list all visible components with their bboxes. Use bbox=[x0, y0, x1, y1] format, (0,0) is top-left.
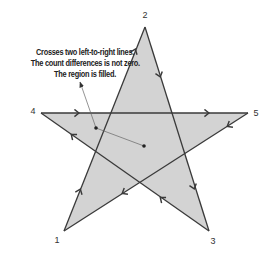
vertex-label-5: 5 bbox=[253, 108, 258, 118]
annotation-text: Crosses two left-to-right lines. The cou… bbox=[31, 47, 139, 80]
test-point-dot bbox=[94, 126, 98, 130]
vertex-label-2: 2 bbox=[142, 10, 147, 20]
ray-end-dot bbox=[142, 144, 146, 148]
annotation-line-1: Crosses two left-to-right lines. bbox=[31, 47, 139, 58]
vertex-label-1: 1 bbox=[54, 235, 59, 245]
vertex-label-4: 4 bbox=[30, 106, 35, 116]
star-diagram: 1 2 3 4 5 bbox=[0, 0, 272, 258]
vertex-label-3: 3 bbox=[210, 236, 215, 246]
annotation-line-2: The count differences is not zero. bbox=[31, 58, 139, 69]
annotation-line-3: The region is filled. bbox=[31, 69, 139, 80]
